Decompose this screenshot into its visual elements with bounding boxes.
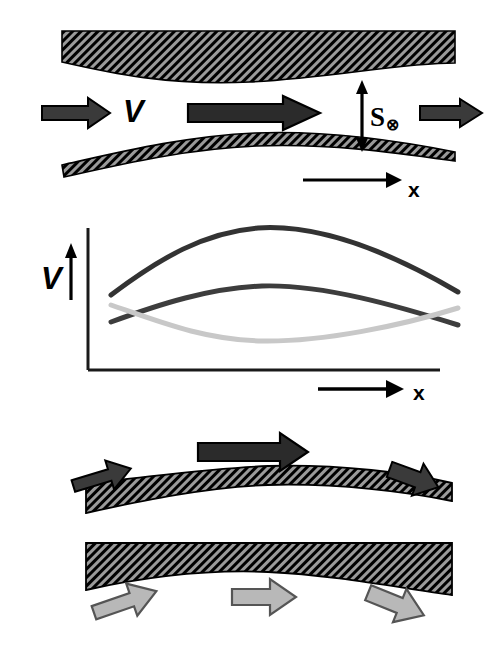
middle-panel-x-axis-arrow — [318, 380, 404, 398]
top-panel-outlet-flow-arrow — [420, 99, 482, 127]
bottom-panel-lower-center-shear-arrow — [232, 579, 296, 615]
top-panel-channel-flow-arrow — [188, 96, 320, 130]
top-panel-x-axis-arrow — [303, 172, 402, 188]
gap-label-letter: S — [370, 102, 385, 132]
top-panel-lower-plate — [62, 132, 455, 177]
panel-top — [42, 31, 482, 188]
figure-canvas — [0, 0, 493, 662]
panel-bottom — [69, 433, 452, 632]
gap-label-subscript-icon: ⊗ — [385, 116, 399, 133]
top-panel-gap-dimension-arrow — [356, 80, 368, 152]
top-panel-velocity-label: V — [123, 96, 144, 127]
chart-series-middle-velocity-curve — [111, 286, 458, 325]
figure-root: V S⊗ x V x — [0, 0, 493, 662]
middle-panel-v-axis-arrow — [65, 243, 77, 300]
top-panel-gap-label: S⊗ — [370, 104, 399, 133]
top-panel-inlet-flow-arrow — [42, 98, 110, 128]
panel-middle — [65, 228, 458, 398]
middle-panel-y-axis-label: V — [41, 263, 62, 294]
middle-panel-x-axis-label: x — [413, 382, 425, 403]
top-panel-upper-plate — [62, 31, 455, 83]
top-panel-x-axis-label: x — [408, 179, 420, 200]
